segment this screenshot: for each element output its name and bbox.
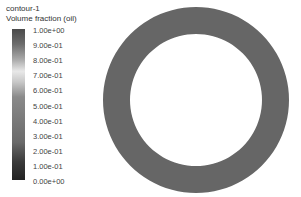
annulus-contour — [0, 0, 301, 197]
